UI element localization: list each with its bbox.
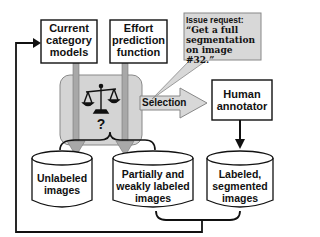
partial-images-label: Partially and weakly labeled images [113, 168, 193, 204]
selection-label: Selection [142, 97, 182, 109]
callout-text: Issue request: “Get a full segmentation … [186, 15, 260, 65]
unlabeled-images-label: Unlabeled images [32, 172, 92, 196]
labeled-images-label: Labeled, segmented images [207, 168, 273, 204]
question-mark: ? [93, 116, 109, 132]
effort-function-label: Effort prediction function [110, 22, 167, 58]
human-annotator-label: Human annotator [212, 88, 272, 112]
category-models-label: Current category models [41, 22, 97, 58]
feedback-arrowhead-icon [33, 38, 41, 48]
